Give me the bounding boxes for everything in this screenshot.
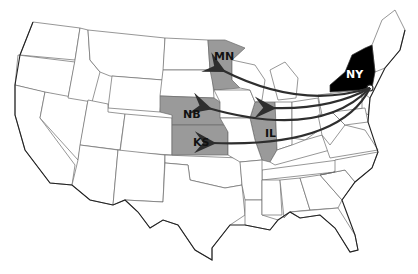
state-south-dakota bbox=[160, 70, 214, 98]
state-wyoming bbox=[108, 76, 163, 112]
label-il: IL bbox=[265, 127, 276, 140]
label-ny: NY bbox=[346, 68, 364, 81]
state-new-mexico bbox=[113, 150, 165, 205]
state-washington bbox=[20, 22, 80, 60]
state-arkansas bbox=[240, 160, 262, 200]
state-north-dakota bbox=[163, 38, 210, 70]
label-mn: MN bbox=[214, 50, 234, 63]
state-arizona bbox=[72, 145, 118, 205]
label-nb: NB bbox=[183, 108, 201, 121]
state-mississippi bbox=[262, 180, 282, 215]
state-colorado bbox=[120, 114, 172, 155]
label-ks: KS bbox=[193, 136, 210, 149]
state-new-england bbox=[372, 10, 405, 72]
us-map: MN NB IL KS NY bbox=[0, 0, 418, 274]
